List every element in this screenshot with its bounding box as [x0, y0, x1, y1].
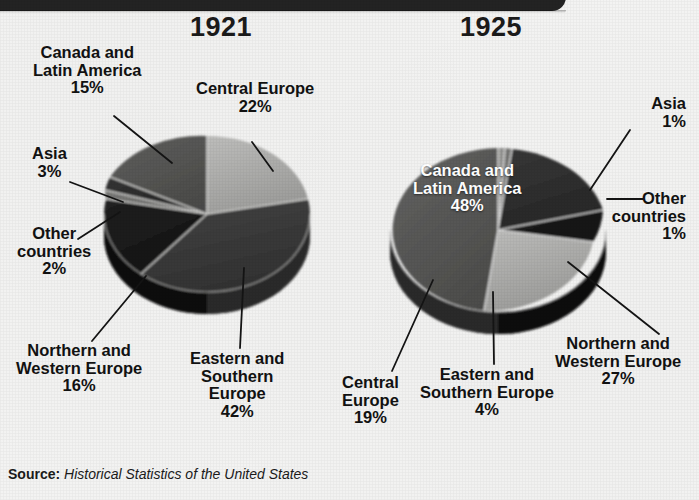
leader-central-1921: [252, 142, 273, 171]
label-line-1: Canada and: [420, 161, 514, 179]
leader-lines: [0, 0, 699, 500]
leader-eastern-1925: [493, 292, 494, 364]
leader-central-1925: [392, 280, 433, 371]
label-line-2: Latin America: [413, 179, 522, 197]
leader-asia-1925: [590, 130, 630, 190]
label-percent: 48%: [413, 197, 522, 215]
leader-northern-1921: [92, 276, 146, 341]
leader-canada-1921: [114, 116, 172, 163]
leader-eastern-1921: [240, 268, 244, 348]
leader-asia-1921: [70, 182, 123, 202]
leader-other-1921: [78, 212, 120, 239]
label-canada-latin-america-1925: Canada and Latin America 48%: [413, 162, 522, 215]
leader-northern-1925: [568, 262, 659, 334]
figure-root: 1921 1925 Canada and Latin America 15% C…: [0, 0, 699, 500]
